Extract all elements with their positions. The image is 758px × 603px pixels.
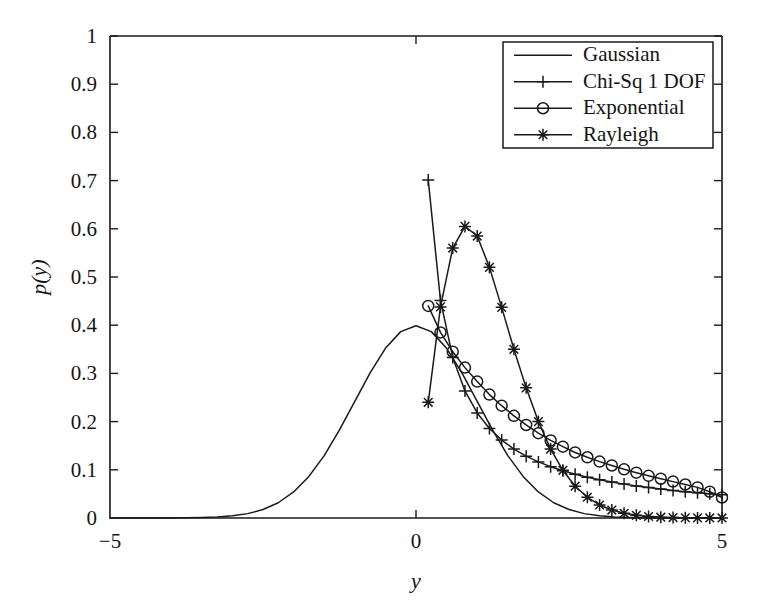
x-tick-label: −5 (99, 529, 121, 553)
y-tick-label: 0.8 (71, 120, 97, 144)
y-tick-label: 1 (87, 24, 98, 48)
chart-legend: GaussianChi-Sq 1 DOFExponentialRayleigh (503, 42, 713, 148)
y-tick-label: 0.3 (71, 361, 97, 385)
y-tick-label: 0.4 (71, 313, 98, 337)
series-gaussian (110, 326, 722, 518)
y-tick-label: 0.1 (71, 458, 97, 482)
legend-label: Exponential (583, 95, 685, 119)
y-tick-label: 0 (87, 506, 98, 530)
y-tick-label: 0.9 (71, 72, 97, 96)
y-tick-label: 0.7 (71, 169, 97, 193)
y-axis-title: p(y) (26, 259, 51, 296)
x-tick-label: 0 (411, 529, 422, 553)
y-tick-label: 0.6 (71, 217, 97, 241)
y-tick-label: 0.2 (71, 410, 97, 434)
x-tick-label: 5 (717, 529, 728, 553)
chart-page: 00.10.20.30.40.50.60.70.80.91 −505 p(y) … (0, 0, 758, 603)
probability-density-chart: 00.10.20.30.40.50.60.70.80.91 −505 p(y) … (0, 0, 758, 603)
series-line (110, 326, 722, 518)
legend-sample-marker (537, 129, 549, 141)
legend-label: Gaussian (583, 42, 660, 66)
legend-label: Chi-Sq 1 DOF (583, 69, 706, 93)
series-group (110, 174, 728, 524)
y-tick-label: 0.5 (71, 265, 97, 289)
legend-label: Rayleigh (583, 122, 659, 146)
x-axis-title: y (409, 568, 421, 593)
